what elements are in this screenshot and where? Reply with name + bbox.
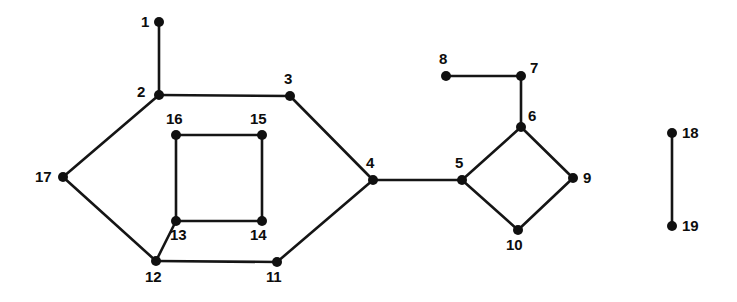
graph-edge-5-6 xyxy=(462,127,521,180)
graph-node-label-4: 4 xyxy=(366,155,374,170)
graph-edge-9-10 xyxy=(518,178,573,230)
graph-node-label-16: 16 xyxy=(166,111,182,126)
graph-node-13[interactable] xyxy=(171,216,181,226)
graph-node-12[interactable] xyxy=(151,256,161,266)
graph-node-label-2: 2 xyxy=(137,84,145,99)
graph-edge-2-17 xyxy=(63,95,159,177)
graph-svg xyxy=(0,0,737,302)
graph-node-11[interactable] xyxy=(272,257,282,267)
graph-node-5[interactable] xyxy=(457,175,467,185)
graph-edge-12-17 xyxy=(63,177,156,261)
graph-node-label-18: 18 xyxy=(682,125,698,140)
graph-node-8[interactable] xyxy=(441,71,451,81)
graph-node-label-3: 3 xyxy=(284,71,292,86)
graph-node-3[interactable] xyxy=(285,91,295,101)
graph-node-label-11: 11 xyxy=(266,269,281,284)
graph-node-14[interactable] xyxy=(257,216,267,226)
graph-node-label-10: 10 xyxy=(506,237,522,252)
graph-node-16[interactable] xyxy=(171,130,181,140)
graph-node-label-19: 19 xyxy=(682,218,698,233)
graph-node-10[interactable] xyxy=(513,225,523,235)
graph-node-label-12: 12 xyxy=(145,269,161,284)
graph-node-1[interactable] xyxy=(154,17,164,27)
graph-edge-11-12 xyxy=(156,261,277,262)
graph-node-label-7: 7 xyxy=(530,60,538,75)
graph-node-15[interactable] xyxy=(257,130,267,140)
graph-node-17[interactable] xyxy=(58,172,68,182)
graph-node-label-15: 15 xyxy=(250,111,266,126)
graph-node-19[interactable] xyxy=(667,221,677,231)
nodes-group xyxy=(58,17,677,267)
graph-node-6[interactable] xyxy=(516,122,526,132)
graph-node-4[interactable] xyxy=(368,175,378,185)
graph-node-label-5: 5 xyxy=(455,155,463,170)
edges-group xyxy=(63,22,672,262)
graph-node-9[interactable] xyxy=(568,173,578,183)
graph-node-label-17: 17 xyxy=(35,169,51,184)
graph-node-label-6: 6 xyxy=(528,108,536,123)
graph-edge-3-4 xyxy=(290,96,373,180)
graph-edge-5-10 xyxy=(462,180,518,230)
graph-node-label-1: 1 xyxy=(141,14,149,29)
graph-edge-4-11 xyxy=(277,180,373,262)
graph-node-2[interactable] xyxy=(154,90,164,100)
graph-node-18[interactable] xyxy=(667,128,677,138)
graph-node-label-9: 9 xyxy=(583,170,591,185)
graph-diagram-canvas: 12345678910111213141516171819 xyxy=(0,0,737,302)
graph-node-label-14: 14 xyxy=(250,227,266,242)
graph-node-label-8: 8 xyxy=(439,51,447,66)
graph-node-7[interactable] xyxy=(516,71,526,81)
graph-edge-6-9 xyxy=(521,127,573,178)
graph-node-label-13: 13 xyxy=(170,227,186,242)
graph-edge-2-3 xyxy=(159,95,290,96)
